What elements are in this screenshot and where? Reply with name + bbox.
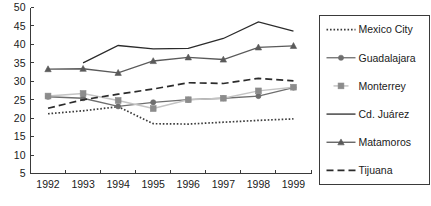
chart-canvas: 5045403530252015105 19921993199419951996… [0,0,431,206]
legend-label: Tijuana [359,164,393,176]
x-tick-label: 1999 [282,178,306,190]
x-tick-label: 1993 [71,178,95,190]
y-tick-label: 45 [14,20,26,32]
data-point-marker [115,98,121,104]
x-axis: 19921993199419951996199719981999 [31,170,312,190]
series-lines [45,22,297,124]
legend-border [320,16,430,185]
y-tick-label: 5 [20,167,26,179]
legend-label: Cd. Juárez [359,108,410,120]
x-tick-label: 1998 [247,178,271,190]
data-point-marker [220,95,226,101]
x-tick-label: 1997 [212,178,236,190]
data-point-marker [338,83,344,89]
y-tick-label: 35 [14,57,26,69]
series-mexico-city [48,107,293,124]
data-point-marker [150,106,156,112]
data-point-marker [338,55,343,60]
data-point-marker [256,93,261,98]
y-tick-label: 10 [14,149,26,161]
x-tick-label: 1996 [177,178,201,190]
legend-label: Matamoros [359,136,412,148]
series-matamoros [45,43,297,76]
y-tick-label: 15 [14,130,26,142]
data-point-marker [116,104,121,109]
data-point-marker [151,100,156,105]
legend-label: Monterrey [359,80,407,92]
line-chart: 5045403530252015105 19921993199419951996… [0,0,431,206]
legend-label: Mexico City [359,23,414,35]
x-tick-label: 1992 [36,178,60,190]
x-tick-label: 1994 [106,178,130,190]
data-point-marker [185,97,191,103]
data-point-marker [80,91,86,97]
data-point-marker [291,84,297,90]
y-tick-label: 25 [14,94,26,106]
x-tick-label: 1995 [142,178,166,190]
y-axis: 5045403530252015105 [14,1,34,179]
y-tick-label: 50 [14,1,26,13]
y-tick-label: 20 [14,112,26,124]
data-point-marker [256,88,262,94]
data-point-marker [45,93,51,99]
y-tick-label: 40 [14,38,26,50]
chart-legend: Mexico CityGuadalajaraMonterreyCd. Juáre… [320,16,430,185]
legend-label: Guadalajara [359,52,416,64]
series-line [48,107,293,124]
y-tick-label: 30 [14,75,26,87]
